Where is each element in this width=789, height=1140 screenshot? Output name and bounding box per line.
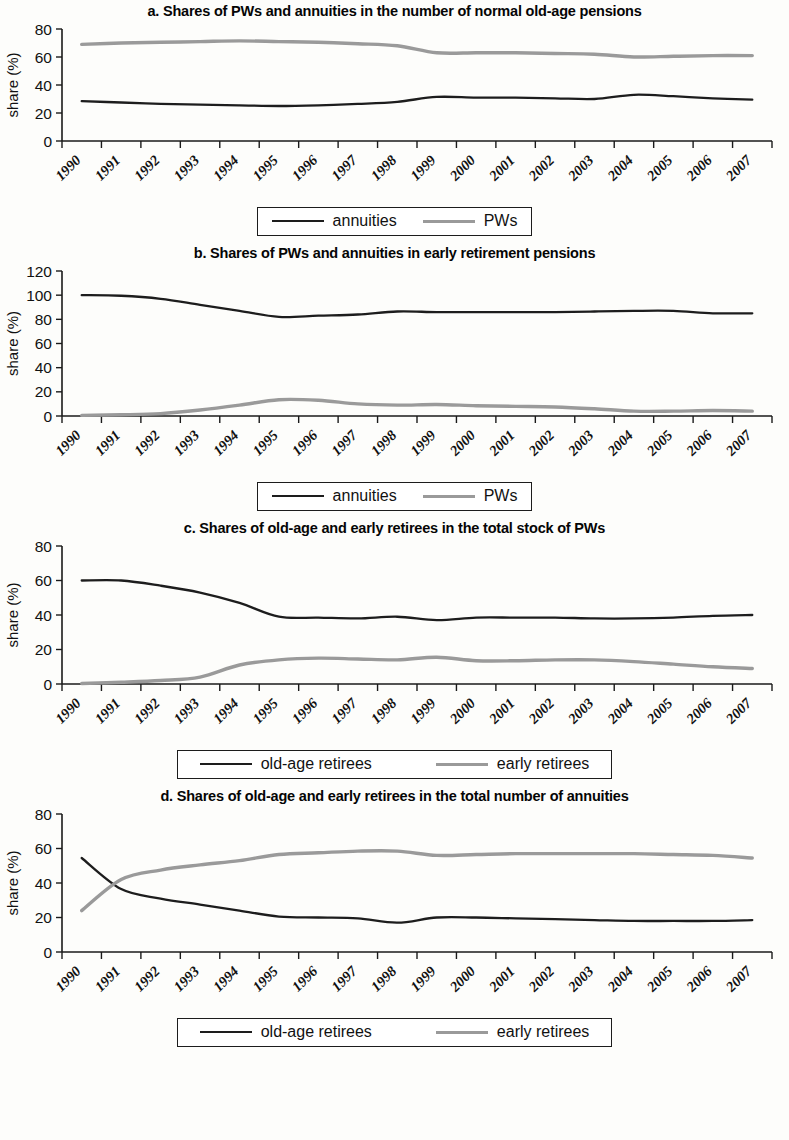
legend-d: old-age retireesearly retirees bbox=[177, 1018, 613, 1047]
y-axis-label-a: share (%) bbox=[4, 52, 21, 117]
svg-text:1991: 1991 bbox=[91, 152, 123, 184]
svg-text:2006: 2006 bbox=[682, 694, 715, 727]
svg-text:1996: 1996 bbox=[289, 151, 321, 183]
legend-label: annuities bbox=[333, 212, 397, 230]
legend-swatch-icon bbox=[200, 1031, 252, 1033]
svg-text:2003: 2003 bbox=[564, 152, 597, 185]
svg-text:2005: 2005 bbox=[643, 427, 676, 460]
svg-text:1994: 1994 bbox=[210, 695, 242, 727]
legend-item-d-0: old-age retirees bbox=[200, 1023, 372, 1041]
svg-text:1998: 1998 bbox=[368, 426, 400, 458]
svg-text:1997: 1997 bbox=[328, 151, 360, 183]
svg-text:1993: 1993 bbox=[170, 427, 202, 459]
svg-text:2001: 2001 bbox=[485, 152, 518, 185]
svg-text:2006: 2006 bbox=[682, 426, 715, 459]
svg-text:2006: 2006 bbox=[682, 962, 715, 995]
svg-text:1991: 1991 bbox=[91, 963, 123, 995]
svg-text:2005: 2005 bbox=[643, 152, 676, 185]
chart-title-b: b. Shares of PWs and annuities in early … bbox=[0, 242, 789, 263]
svg-text:2004: 2004 bbox=[604, 427, 637, 460]
svg-text:1996: 1996 bbox=[289, 962, 321, 994]
svg-text:1997: 1997 bbox=[328, 426, 360, 458]
chart-title-d: d. Shares of old-age and early retirees … bbox=[0, 785, 789, 806]
svg-text:60: 60 bbox=[35, 840, 53, 857]
svg-text:60: 60 bbox=[35, 572, 53, 589]
svg-text:2000: 2000 bbox=[446, 152, 479, 185]
svg-text:1999: 1999 bbox=[407, 963, 439, 995]
legend-item-d-1: early retirees bbox=[436, 1023, 589, 1041]
svg-text:2004: 2004 bbox=[604, 963, 637, 996]
chart-title-a: a. Shares of PWs and annuities in the nu… bbox=[0, 0, 789, 21]
legend-swatch-icon bbox=[423, 495, 475, 498]
svg-text:1990: 1990 bbox=[52, 963, 84, 995]
svg-text:40: 40 bbox=[35, 359, 53, 376]
svg-text:2007: 2007 bbox=[722, 962, 755, 995]
svg-text:1993: 1993 bbox=[170, 963, 202, 995]
legend-label: PWs bbox=[484, 212, 518, 230]
plot-area-d: 0204060801990199119921993199419951996199… bbox=[0, 806, 789, 1016]
svg-text:20: 20 bbox=[35, 105, 53, 122]
figure-root: a. Shares of PWs and annuities in the nu… bbox=[0, 0, 789, 1053]
svg-text:80: 80 bbox=[35, 806, 53, 823]
svg-text:1990: 1990 bbox=[52, 152, 84, 184]
svg-text:1993: 1993 bbox=[170, 152, 202, 184]
legend-label: old-age retirees bbox=[261, 1023, 372, 1041]
legend-label: old-age retirees bbox=[261, 755, 372, 773]
svg-text:1991: 1991 bbox=[91, 695, 123, 727]
y-axis-label-b: share (%) bbox=[4, 311, 21, 376]
svg-text:120: 120 bbox=[26, 263, 52, 280]
legend-swatch-icon bbox=[272, 495, 324, 497]
legend-item-a-1: PWs bbox=[423, 212, 518, 230]
chart-panel-d: d. Shares of old-age and early retirees … bbox=[0, 785, 789, 1053]
legend-label: early retirees bbox=[497, 755, 589, 773]
svg-text:2001: 2001 bbox=[485, 963, 518, 996]
svg-text:2000: 2000 bbox=[446, 963, 479, 996]
svg-text:2007: 2007 bbox=[722, 151, 755, 184]
svg-text:2001: 2001 bbox=[485, 695, 518, 728]
svg-text:1998: 1998 bbox=[368, 962, 400, 994]
svg-text:2004: 2004 bbox=[604, 695, 637, 728]
chart-panel-c: c. Shares of old-age and early retirees … bbox=[0, 517, 789, 785]
svg-text:2002: 2002 bbox=[525, 963, 558, 996]
svg-text:2003: 2003 bbox=[564, 695, 597, 728]
plot-area-c: 0204060801990199119921993199419951996199… bbox=[0, 538, 789, 748]
svg-text:1990: 1990 bbox=[52, 695, 84, 727]
legend-item-a-0: annuities bbox=[272, 212, 397, 230]
legend-b: annuitiesPWs bbox=[257, 482, 533, 511]
legend-label: PWs bbox=[484, 487, 518, 505]
svg-text:1992: 1992 bbox=[131, 152, 163, 184]
svg-text:1991: 1991 bbox=[91, 427, 123, 459]
svg-text:1994: 1994 bbox=[210, 427, 242, 459]
svg-text:0: 0 bbox=[43, 133, 52, 150]
y-axis-label-d: share (%) bbox=[4, 850, 21, 915]
svg-text:2000: 2000 bbox=[446, 695, 479, 728]
svg-text:40: 40 bbox=[35, 77, 53, 94]
plot-area-a: 0204060801990199119921993199419951996199… bbox=[0, 21, 789, 205]
svg-text:80: 80 bbox=[35, 311, 53, 328]
svg-text:2002: 2002 bbox=[525, 152, 558, 185]
svg-text:2005: 2005 bbox=[643, 963, 676, 996]
svg-text:1997: 1997 bbox=[328, 694, 360, 726]
svg-text:1996: 1996 bbox=[289, 694, 321, 726]
svg-text:2005: 2005 bbox=[643, 695, 676, 728]
svg-text:1992: 1992 bbox=[131, 427, 163, 459]
svg-text:2002: 2002 bbox=[525, 695, 558, 728]
svg-text:1993: 1993 bbox=[170, 695, 202, 727]
svg-text:2006: 2006 bbox=[682, 151, 715, 184]
svg-text:2007: 2007 bbox=[722, 694, 755, 727]
svg-text:60: 60 bbox=[35, 49, 53, 66]
svg-text:0: 0 bbox=[43, 676, 52, 693]
legend-item-c-1: early retirees bbox=[436, 755, 589, 773]
svg-text:1990: 1990 bbox=[52, 427, 84, 459]
chart-panel-b: b. Shares of PWs and annuities in early … bbox=[0, 242, 789, 517]
svg-text:2003: 2003 bbox=[564, 427, 597, 460]
legend-swatch-icon bbox=[436, 1031, 488, 1034]
legend-label: annuities bbox=[333, 487, 397, 505]
svg-text:2000: 2000 bbox=[446, 427, 479, 460]
legend-swatch-icon bbox=[436, 763, 488, 766]
y-axis-label-c: share (%) bbox=[4, 582, 21, 647]
svg-text:1997: 1997 bbox=[328, 962, 360, 994]
svg-text:1999: 1999 bbox=[407, 152, 439, 184]
svg-text:1996: 1996 bbox=[289, 426, 321, 458]
svg-text:1999: 1999 bbox=[407, 695, 439, 727]
